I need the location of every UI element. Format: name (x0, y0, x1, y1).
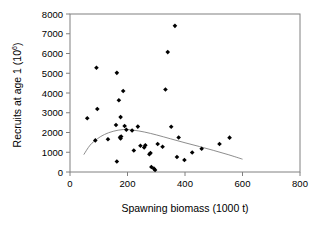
x-tick-label: 400 (177, 178, 193, 189)
scatter-chart: 0200400600800 01000200030004000500060007… (0, 0, 321, 227)
x-tick-label: 200 (120, 178, 136, 189)
x-tick-label: 600 (235, 178, 251, 189)
y-tick-label: 0 (58, 167, 63, 178)
y-axis-tick-labels: 010002000300040005000600070008000 (42, 9, 63, 178)
x-tick-label: 800 (292, 178, 308, 189)
y-tick-label: 7000 (42, 28, 63, 39)
chart-canvas: 0200400600800 01000200030004000500060007… (0, 0, 321, 227)
y-tick-label: 5000 (42, 68, 63, 79)
y-tick-label: 8000 (42, 9, 63, 20)
y-tick-label: 3000 (42, 107, 63, 118)
y-axis-title-group: Recruits at age 1 (106) (11, 43, 23, 148)
x-tick-label: 0 (67, 178, 72, 189)
y-axis-title-main: Recruits at age 1 (10 (11, 50, 23, 148)
y-axis-title: Recruits at age 1 (106) (11, 43, 23, 148)
y-axis-title-close: ) (11, 43, 23, 47)
y-tick-label: 2000 (42, 127, 63, 138)
y-tick-label: 6000 (42, 48, 63, 59)
x-axis-title: Spawning biomass (1000 t) (121, 202, 248, 214)
y-tick-label: 4000 (42, 88, 63, 99)
y-tick-label: 1000 (42, 147, 63, 158)
